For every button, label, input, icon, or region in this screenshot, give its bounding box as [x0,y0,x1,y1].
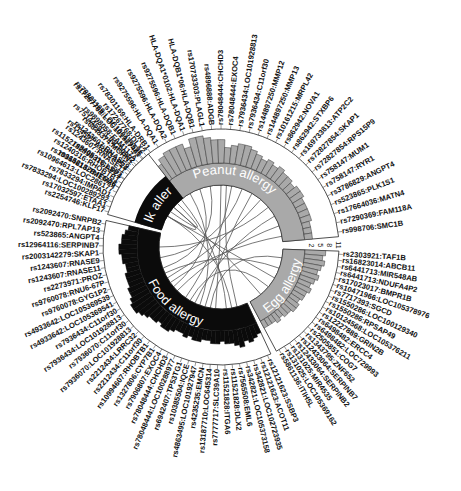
label-connector [148,149,150,152]
link-layer [159,185,282,309]
scale-tick-label: 11 [335,241,342,248]
label-connector [136,160,139,163]
label-connector [127,169,130,172]
label-connector [195,362,196,366]
label-connector [116,185,119,187]
label-connector [141,336,144,339]
label-connector [192,129,193,133]
label-connector [188,360,189,364]
histogram-bar [220,331,225,341]
label-connector [180,358,181,362]
label-connector [101,268,105,269]
label-connector [140,156,143,159]
label-connector [117,309,120,311]
histogram-bar [224,331,229,344]
label-connector [130,326,133,329]
circos-figure: Peanut allergyEgg allergyFood allergyMil… [0,0,461,491]
label-connector [102,275,106,276]
snp-gene-label: rs78048444:CHCHD3 [216,50,225,125]
snp-gene-label: rs11521828:ITGA6 [221,369,232,435]
label-connector [101,223,105,224]
label-connector [132,164,135,167]
label-connector [165,139,167,143]
link-chord [159,207,268,247]
label-connector [106,206,110,207]
label-connector [121,315,124,317]
label-connector [100,231,104,232]
label-connector [160,349,162,352]
label-connector [125,172,128,174]
label-connector [202,364,203,368]
scale-tick-label: 8 [326,243,333,247]
circos-plot: Peanut allergyEgg allergyFood allergyMil… [0,0,461,491]
label-connector [108,200,112,202]
label-connector [104,282,108,283]
scale-tick-label: 5 [317,243,324,247]
label-connector [173,135,175,139]
label-connector [115,186,118,188]
label-connector [110,296,114,298]
snp-gene-label: rs12964116:SERPINB7 [18,240,99,250]
histogram-bar [218,140,225,163]
label-connector [118,181,121,183]
scale-tick-label: 2 [308,244,315,248]
histogram-bar [304,233,312,240]
label-connector [113,302,117,304]
label-connector [105,211,109,212]
label-connector [126,321,129,323]
label-connector [140,155,143,158]
label-connector [113,191,117,193]
label-connector [147,341,149,344]
label-connector [107,289,111,290]
label-connector [136,331,139,334]
label-connector [173,356,175,360]
snp-label-layer: rs11521828:ITGA6rs1152182898:ITGAP24rs11… [18,34,431,459]
scale-ticks: 25811 [308,241,342,248]
label-connector [110,195,114,197]
label-connector [153,345,155,348]
histogram-bar [119,244,137,249]
label-connector [183,131,184,135]
label-connector [156,144,158,147]
label-connector [202,127,203,131]
label-connector [144,153,147,156]
label-connector [133,162,136,165]
label-connector [128,168,131,171]
label-connector [166,353,168,357]
